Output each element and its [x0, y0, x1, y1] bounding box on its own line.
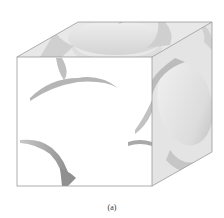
front-face [17, 57, 152, 186]
top-face-atom [68, 21, 164, 55]
fcc-unit-cell-diagram [0, 0, 224, 218]
figure-caption: (a) [0, 203, 224, 212]
